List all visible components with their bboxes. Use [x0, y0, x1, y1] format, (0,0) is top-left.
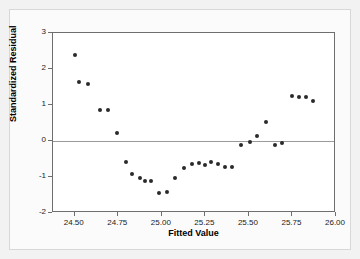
- x-tick-mark: [161, 212, 162, 216]
- data-point: [143, 179, 147, 183]
- x-tick-mark: [117, 212, 118, 216]
- data-point: [124, 160, 128, 164]
- data-point: [197, 161, 201, 165]
- data-point: [138, 176, 142, 180]
- data-point: [98, 108, 102, 112]
- plot-area: [52, 32, 335, 212]
- data-point: [273, 143, 277, 147]
- data-point: [190, 162, 194, 166]
- data-point: [280, 141, 284, 145]
- figure-canvas: Standardized Residual 3210-1-2 24.5024.7…: [0, 0, 360, 259]
- data-point: [173, 176, 177, 180]
- x-tick-mark: [291, 212, 292, 216]
- data-point: [290, 94, 294, 98]
- data-point: [297, 95, 301, 99]
- x-tick-label: 25.50: [238, 219, 258, 227]
- data-point: [182, 166, 186, 170]
- x-tick-label: 26.00: [325, 219, 345, 227]
- data-point: [248, 140, 252, 144]
- x-tick-label: 25.75: [281, 219, 301, 227]
- data-point: [77, 80, 81, 84]
- data-point: [304, 95, 308, 99]
- data-point: [157, 191, 161, 195]
- x-tick-label: 24.50: [64, 219, 84, 227]
- data-point: [216, 162, 220, 166]
- data-point: [115, 131, 119, 135]
- x-axis-title: Fitted Value: [52, 228, 335, 238]
- data-point: [106, 108, 110, 112]
- x-tick-label: 25.25: [194, 219, 214, 227]
- data-point: [239, 143, 243, 147]
- x-tick-mark: [74, 212, 75, 216]
- x-tick-mark: [335, 212, 336, 216]
- zero-reference-line: [53, 141, 334, 142]
- data-point: [223, 165, 227, 169]
- x-tick-mark: [204, 212, 205, 216]
- data-point: [165, 190, 169, 194]
- data-point: [86, 82, 90, 86]
- data-point: [209, 160, 213, 164]
- x-tick-mark: [248, 212, 249, 216]
- data-point: [130, 172, 134, 176]
- x-tick-label: 24.75: [107, 219, 127, 227]
- data-point: [255, 134, 259, 138]
- data-point: [73, 53, 77, 57]
- data-point: [149, 179, 153, 183]
- data-point: [230, 165, 234, 169]
- data-point: [311, 99, 315, 103]
- x-tick-label: 25.00: [151, 219, 171, 227]
- data-point: [203, 163, 207, 167]
- data-point: [264, 120, 268, 124]
